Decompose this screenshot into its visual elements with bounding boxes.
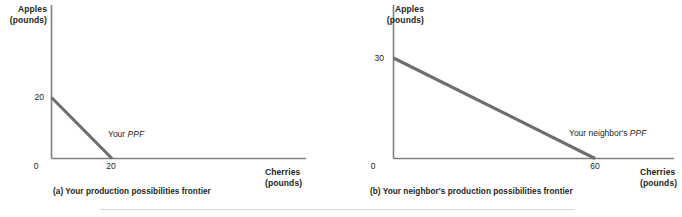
x-axis-title-unit: (pounds) bbox=[640, 178, 682, 189]
y-axis-title: Apples (pounds) bbox=[355, 4, 424, 25]
panel-neighbor-ppf: Apples (pounds) Cherries (pounds) 30 0 6… bbox=[337, 0, 674, 217]
ppf-curve bbox=[394, 58, 596, 159]
x-axis-title-name: Cherries bbox=[640, 167, 682, 178]
ppf-curve bbox=[52, 98, 113, 159]
y-axis-title-name: Apples bbox=[0, 4, 47, 15]
x-tick-label-60: 60 bbox=[582, 161, 608, 171]
x-axis-title-name: Cherries bbox=[265, 167, 335, 178]
x-axis-title-unit: (pounds) bbox=[265, 178, 335, 189]
y-axis-title-unit: (pounds) bbox=[0, 15, 47, 26]
panel-caption-b: (b) Your neighbor's production possibili… bbox=[370, 187, 573, 197]
x-axis-title: Cherries (pounds) bbox=[265, 167, 335, 188]
panel-caption-a: (a) Your production possibilities fronti… bbox=[53, 187, 211, 197]
y-tick-label-30: 30 bbox=[360, 53, 384, 63]
curve-annotation-prefix: Your neighbor's bbox=[569, 128, 630, 138]
x-axis-title: Cherries (pounds) bbox=[640, 167, 682, 188]
y-tick-label-20: 20 bbox=[20, 92, 44, 102]
y-axis-title-name: Apples bbox=[355, 4, 424, 15]
origin-label: 0 bbox=[365, 161, 381, 171]
curve-annotation-abbrev: PPF bbox=[128, 129, 145, 139]
curve-annotation-abbrev: PPF bbox=[630, 128, 647, 138]
curve-annotation-your-ppf: Your PPF bbox=[108, 129, 144, 139]
panel-your-ppf: Apples (pounds) Cherries (pounds) 20 0 2… bbox=[0, 0, 337, 217]
x-tick-label-20: 20 bbox=[98, 161, 124, 171]
bottom-divider bbox=[100, 209, 574, 210]
curve-annotation-neighbor-ppf: Your neighbor's PPF bbox=[569, 128, 646, 138]
curve-annotation-prefix: Your bbox=[108, 129, 128, 139]
y-axis-title: Apples (pounds) bbox=[0, 4, 47, 25]
y-axis-title-unit: (pounds) bbox=[355, 15, 424, 26]
plot-area-neighbor-ppf bbox=[337, 0, 674, 217]
origin-label: 0 bbox=[28, 161, 44, 171]
